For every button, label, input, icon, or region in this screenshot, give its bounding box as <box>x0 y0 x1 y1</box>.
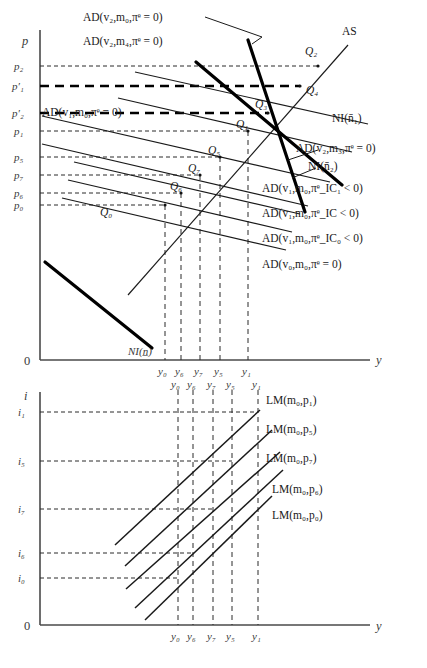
curve-label-lm-p7: LM(m₀,p₇) <box>266 452 317 465</box>
output-guides-top <box>165 131 248 360</box>
tick-y6-upper: y₆ <box>186 378 196 390</box>
lm-p5-curve <box>125 430 272 566</box>
curve-label-lm-p0: LM(m₀,p₀) <box>272 509 323 522</box>
i-axis-label: i <box>24 389 28 403</box>
tick-y0-upper: y₀ <box>170 378 180 390</box>
curve-label-ad-ic1: AD(v₁,m₀,πᵉ_IC₁ < 0) <box>262 182 363 195</box>
curve-label-lm-p5: LM(m₀,p₅) <box>266 423 317 436</box>
tick-p6: p₆ <box>13 187 24 199</box>
tick-y6-bottom: y₆ <box>186 630 196 642</box>
lm-p6-curve <box>135 470 283 608</box>
ni-n-lower <box>45 262 152 348</box>
curve-label-as: AS <box>342 25 357 37</box>
tick-p2: p₂ <box>13 60 24 72</box>
tick-y5-upper: y₅ <box>225 378 235 390</box>
tick-y7-upper: y₇ <box>206 378 216 390</box>
tick-p2p: p′₂ <box>11 107 24 119</box>
tick-p7: p₇ <box>13 169 24 181</box>
lm-p1-curve <box>115 410 260 545</box>
tick-i6: i₆ <box>18 547 25 559</box>
tick-p1p: p′₁ <box>11 80 24 92</box>
tick-i7: i₇ <box>18 503 25 515</box>
y-axis-label-bottom: y <box>374 619 382 633</box>
equilibrium-q7: Q₇ <box>188 162 200 174</box>
tick-p5: p₅ <box>13 151 24 163</box>
curve-label-ad-ic0: AD(v₁,m₀,πᵉ_IC₀ < 0) <box>262 232 363 245</box>
figure-root: p y 0 p₂ p′₁ p′₂ p₁ p₅ p₇ p₆ p₀ y₀ y₆ y₇… <box>0 0 427 668</box>
tick-y1-upper: y₁ <box>251 378 261 390</box>
curve-label-ad-v2-m3: AD(v₂,m₃,πᵉ = 0) <box>296 142 376 155</box>
tick-y5-bottom: y₅ <box>225 630 235 642</box>
curve-label-ni-n-lower: NI(n̲) <box>127 345 152 358</box>
tick-p0: p₀ <box>13 199 24 211</box>
curve-label-ad-v2-m4: AD(v₂,m₄,πᵉ = 0) <box>83 35 163 48</box>
y-axis-label-top: y <box>374 353 382 367</box>
tick-y5-top: y₅ <box>213 365 223 377</box>
equilibrium-q4: Q₄ <box>306 84 318 96</box>
tick-p1: p₁ <box>13 125 24 137</box>
origin-label-top: 0 <box>24 354 30 368</box>
equilibrium-q3: Q₃ <box>255 98 267 110</box>
curve-label-ad-v1-m0: AD(v₁,m₀,πᵉ = 0) <box>42 106 122 119</box>
lm-p7-curve <box>126 452 280 589</box>
tick-y6-top: y₆ <box>174 365 184 377</box>
tick-y1-bottom: y₁ <box>251 630 261 642</box>
curve-label-lm-p1: LM(m₀,p₁) <box>266 394 317 407</box>
economics-diagram: p y 0 p₂ p′₁ p′₂ p₁ p₅ p₇ p₆ p₀ y₀ y₆ y₇… <box>0 0 427 668</box>
curve-label-ni-n2: NI(n̄₂) <box>308 160 338 173</box>
tick-y0-top: y₀ <box>157 365 167 377</box>
p-axis-label: p <box>21 34 28 48</box>
tick-y0-bottom: y₀ <box>170 630 180 642</box>
tick-y1-top: y₁ <box>241 365 251 377</box>
equilibrium-q5: Q₅ <box>208 144 220 156</box>
equilibrium-q2: Q₂ <box>305 45 317 57</box>
curve-label-ad-ic: AD(v₁,m₀,πᵉ_IC < 0) <box>262 207 359 220</box>
tick-i0: i₀ <box>18 572 25 584</box>
equilibrium-q0: Q₀ <box>100 206 112 218</box>
interest-guides <box>40 412 258 578</box>
tick-y7-top: y₇ <box>193 365 203 377</box>
lm-p0-curve <box>145 496 272 620</box>
origin-label-bottom: 0 <box>24 619 30 633</box>
equilibrium-q6: Q₆ <box>170 180 182 192</box>
curve-label-lm-p6: LM(m₀,p₆) <box>272 483 323 496</box>
equilibrium-q1: Q₁ <box>236 118 248 130</box>
tick-i5: i₅ <box>18 455 25 467</box>
lm-panel: i y 0 i₁ i₅ i₇ i₆ i₀ y₀ y₆ y₇ y₅ y₁ y₀ y… <box>18 378 382 642</box>
tick-y7-bottom: y₇ <box>206 630 216 642</box>
curve-label-ad-v0-m0: AD(v₀,m₀,πᵉ = 0) <box>262 258 342 271</box>
ad-as-panel: p y 0 p₂ p′₁ p′₂ p₁ p₅ p₇ p₆ p₀ y₀ y₆ y₇… <box>11 11 382 377</box>
curve-label-ni-n1: NI(n̄₁) <box>332 112 362 125</box>
tick-i1: i₁ <box>18 406 25 418</box>
curve-label-ad-v2-m0: AD(v₂,m₀,πᵉ = 0) <box>83 11 163 24</box>
